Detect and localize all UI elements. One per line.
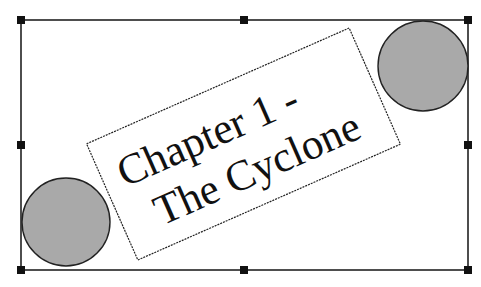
drawing-canvas[interactable]: Chapter 1 - The Cyclone xyxy=(0,0,481,287)
resize-handle-top-right[interactable] xyxy=(464,16,472,24)
resize-handle-bottom-left[interactable] xyxy=(17,266,25,274)
resize-handle-middle-right[interactable] xyxy=(464,141,472,149)
circle-shape-right[interactable] xyxy=(378,21,468,111)
resize-handle-top-middle[interactable] xyxy=(240,16,248,24)
resize-handle-bottom-middle[interactable] xyxy=(240,266,248,274)
resize-handle-middle-left[interactable] xyxy=(17,141,25,149)
rotated-text-box[interactable]: Chapter 1 - The Cyclone xyxy=(87,28,401,260)
resize-handle-bottom-right[interactable] xyxy=(464,266,472,274)
resize-handle-top-left[interactable] xyxy=(17,16,25,24)
circle-shape-left[interactable] xyxy=(22,178,110,266)
